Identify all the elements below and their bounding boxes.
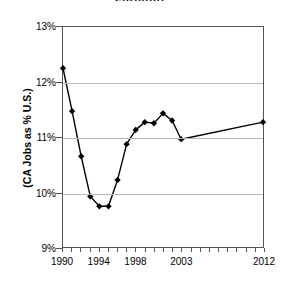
x-tick-mark [209,248,210,252]
x-tick-mark [200,248,201,252]
x-tick-mark [80,248,81,252]
y-tick-label: 9% [42,243,56,254]
y-tick-label: 13% [36,21,56,32]
data-point-marker [69,108,75,114]
x-tick-label: 1994 [88,256,110,267]
x-tick-label: 2012 [253,256,275,267]
x-tick-label: 1998 [124,256,146,267]
x-tick-mark [62,248,63,252]
x-tick-mark [145,248,146,252]
x-tick-mark [236,248,237,252]
x-tick-label: 1990 [51,256,73,267]
x-tick-mark [163,248,164,252]
gridline [63,138,263,139]
y-tick-label: 10% [36,187,56,198]
x-tick-mark [126,248,127,252]
plot-area [62,26,264,248]
data-point-marker [260,119,266,125]
y-axis-tick-labels: 9%10%11%12%13% [0,0,62,287]
x-tick-mark [264,248,265,252]
x-tick-mark [246,248,247,252]
x-tick-mark [117,248,118,252]
series-line-segment-2 [181,122,263,139]
x-axis-tick-labels: 19901994199820032012 [0,256,283,270]
x-tick-mark [108,248,109,252]
data-point-marker [114,177,120,183]
x-tick-mark [71,248,72,252]
x-axis-tick-marks [62,248,264,253]
data-point-marker [105,203,111,209]
gridline [63,83,263,84]
y-tick-label: 11% [37,132,56,143]
x-tick-mark [172,248,173,252]
x-tick-mark [191,248,192,252]
x-tick-mark [135,248,136,252]
x-tick-mark [154,248,155,252]
x-tick-mark [99,248,100,252]
x-tick-mark [181,248,182,252]
data-series-layer [63,27,263,247]
gridline [63,194,263,195]
x-tick-mark [218,248,219,252]
x-tick-mark [255,248,256,252]
y-tick-label: 12% [36,76,56,87]
x-tick-label: 2003 [170,256,192,267]
chart-container: Furniture (CA Jobs as % U.S.) 9%10%11%12… [0,0,283,287]
data-point-marker [178,136,184,142]
x-tick-mark [90,248,91,252]
data-point-marker [78,153,84,159]
x-tick-mark [227,248,228,252]
